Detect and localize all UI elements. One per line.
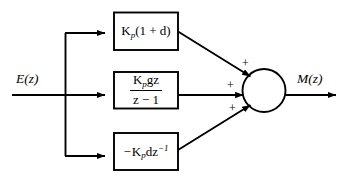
diagram-vector-layer (0, 0, 348, 188)
integral-block-rect (114, 72, 178, 109)
sign-left: + (227, 79, 234, 91)
proportional-block-rect (114, 13, 178, 51)
output-line-proportional (178, 32, 251, 77)
input-label-text: E(z) (16, 71, 39, 86)
sign-upper-left: + (242, 57, 249, 69)
block-diagram-canvas: E(z) M(z) Kp(1 + d) Kpgz z − 1 − Kpdz−1 … (0, 0, 348, 188)
derivative-block-rect (114, 133, 178, 170)
output-label: M(z) (297, 72, 323, 86)
output-line-derivative (178, 105, 251, 150)
summing-junction-circle (243, 69, 286, 112)
input-label: E(z) (16, 72, 39, 86)
sign-lower-left: + (229, 102, 236, 114)
output-label-text: M(z) (297, 71, 323, 86)
